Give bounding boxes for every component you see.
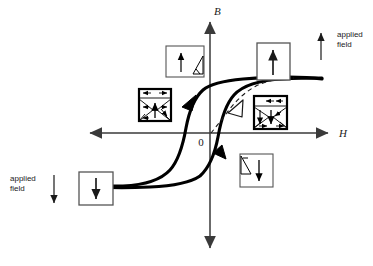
domain-box-lower-right-near-saturation bbox=[240, 154, 273, 187]
origin-label: 0 bbox=[198, 136, 204, 148]
annotation-applied-field-down: applied field bbox=[10, 174, 54, 203]
axes-group bbox=[90, 22, 328, 248]
applied-field-down-line1: applied bbox=[10, 174, 36, 183]
domain-box-right-remanence-multidomain bbox=[254, 96, 287, 129]
hysteresis-figure: B H 0 bbox=[0, 0, 373, 266]
applied-field-up-line2: field bbox=[337, 40, 352, 49]
b-axis-label: B bbox=[214, 5, 221, 17]
domain-box-lower-left-saturation bbox=[79, 172, 113, 205]
domain-box-left-remanence-multidomain bbox=[139, 89, 171, 121]
annotation-applied-field-up: applied field bbox=[321, 30, 363, 60]
h-axis-label: H bbox=[338, 127, 348, 139]
applied-field-down-line2: field bbox=[10, 184, 25, 193]
descending-branch-arrowhead bbox=[182, 95, 196, 111]
applied-field-up-line1: applied bbox=[337, 30, 363, 39]
domain-box-upper-left-near-saturation bbox=[166, 46, 204, 77]
domain-box-upper-right-saturation bbox=[257, 43, 290, 80]
